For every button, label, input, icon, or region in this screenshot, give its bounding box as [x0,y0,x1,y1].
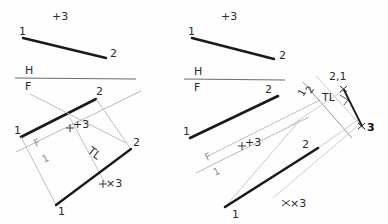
left-fold-f1-upper-label: F [32,136,42,149]
right-construction-projector-to-point-view [273,124,360,198]
left-top-plus-3-label: +3 [52,10,68,23]
right-aux-endpoint-1-label: 1 [232,208,239,221]
drawing-sheet: +3 1 2 H F 2 1 +3 ×3 F 1 TL 2 1 +3 1 2 H… [0,0,388,224]
left-fold-line-hf [15,78,136,79]
engineering-drawing-canvas: +3 1 2 H F 2 1 +3 ×3 F 1 TL 2 1 +3 1 2 H… [0,0,388,224]
right-point-view-3-label: 3 [367,121,375,134]
right-top-view-line-1-2 [192,38,274,59]
left-top-view-line-1-2 [23,38,106,58]
right-front-endpoint-2-label: 2 [265,83,272,96]
left-front-endpoint-2-label: 2 [96,85,103,98]
left-aux-endpoint-1-label: 1 [58,205,65,218]
left-fold-hf-upper-label: H [25,64,33,77]
left-fold-f1-lower-label: 1 [40,152,51,165]
left-aux-plus-3-label: ×3 [106,177,122,190]
right-aux-plus-marker-ticks [282,200,290,206]
right-point-view-line-to-3 [344,90,362,126]
right-point-view-marker-21 [340,86,347,92]
left-top-endpoint-1-label: 1 [19,25,26,38]
left-front-plus-3-label: +3 [73,118,89,131]
right-front-endpoint-1-label: 1 [183,125,190,138]
right-fold-f1-lower-label: 1 [211,165,222,178]
right-front-plus-3-label: +3 [245,136,261,149]
left-aux-endpoint-2-label: 2 [133,136,140,149]
right-top-endpoint-2-label: 2 [279,49,286,62]
left-front-endpoint-1-label: 1 [14,124,21,137]
right-fold-line-hf [184,79,285,80]
right-top-endpoint-1-label: 1 [188,25,195,38]
right-construction-projector-aux-left [225,120,300,207]
right-point-view-tl-label: TL [321,91,336,104]
right-aux-plus-3-label: ×3 [290,197,306,210]
right-top-plus-3-label: +3 [221,10,237,23]
right-construction-projector-aux-right [318,120,358,148]
right-front-view-line-1-2 [190,96,278,138]
left-top-endpoint-2-label: 2 [110,47,117,60]
left-true-length-label: TL [84,144,104,163]
left-construction-projector-edge-right [96,99,131,149]
right-point-view-coincident-label: 2,1 [329,70,347,83]
right-fold-hf-lower-label: F [194,81,200,94]
right-aux-endpoint-2-label: 2 [302,138,309,151]
left-fold-hf-lower-label: F [25,80,31,93]
right-problem-group [184,38,366,207]
right-fold-hf-upper-label: H [194,65,202,78]
right-fold-f1-upper-label: F [203,150,213,163]
